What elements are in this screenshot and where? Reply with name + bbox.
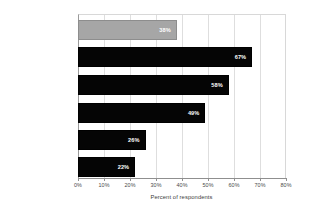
bar-value-label: 58% bbox=[211, 82, 223, 88]
bar-value-label: 26% bbox=[128, 137, 140, 143]
bar-chart-figure: Entire study population 38% Level 5 67% … bbox=[0, 0, 313, 211]
bar-level-4: 58% bbox=[78, 75, 229, 95]
x-tick bbox=[182, 178, 183, 181]
bar-row: Level 2 26% bbox=[78, 130, 286, 150]
bar-entire-study-population: 38% bbox=[78, 20, 177, 40]
x-tick bbox=[104, 178, 105, 181]
bar-level-2: 26% bbox=[78, 130, 146, 150]
x-tick bbox=[286, 178, 287, 181]
x-tick-label: 30% bbox=[150, 182, 161, 188]
x-tick bbox=[234, 178, 235, 181]
x-axis-title-text: Percent of respondents bbox=[150, 194, 212, 200]
x-tick-label: 40% bbox=[176, 182, 187, 188]
x-axis-title: Percent of respondents bbox=[0, 194, 313, 200]
bar-value-label: 38% bbox=[159, 27, 171, 33]
bar-value-label: 49% bbox=[188, 110, 200, 116]
x-tick bbox=[130, 178, 131, 181]
x-tick-label: 20% bbox=[124, 182, 135, 188]
bar-row: Level 1 22% bbox=[78, 157, 286, 177]
bar-row: Level 4 58% bbox=[78, 75, 286, 95]
bar-row: Entire study population 38% bbox=[78, 20, 286, 40]
bar-row: Level 5 67% bbox=[78, 47, 286, 67]
bar-value-label: 67% bbox=[235, 54, 247, 60]
x-tick bbox=[156, 178, 157, 181]
bar-level-1: 22% bbox=[78, 157, 135, 177]
x-tick bbox=[208, 178, 209, 181]
bar-value-label: 22% bbox=[118, 164, 130, 170]
bar-row: Level 3 49% bbox=[78, 103, 286, 123]
x-tick-label: 0% bbox=[74, 182, 82, 188]
x-tick-label: 10% bbox=[98, 182, 109, 188]
x-tick-label: 70% bbox=[254, 182, 265, 188]
bar-level-5: 67% bbox=[78, 47, 252, 67]
x-tick bbox=[78, 178, 79, 181]
x-tick-label: 80% bbox=[280, 182, 291, 188]
x-tick bbox=[260, 178, 261, 181]
bar-level-3: 49% bbox=[78, 103, 205, 123]
x-tick-label: 60% bbox=[228, 182, 239, 188]
x-tick-label: 50% bbox=[202, 182, 213, 188]
